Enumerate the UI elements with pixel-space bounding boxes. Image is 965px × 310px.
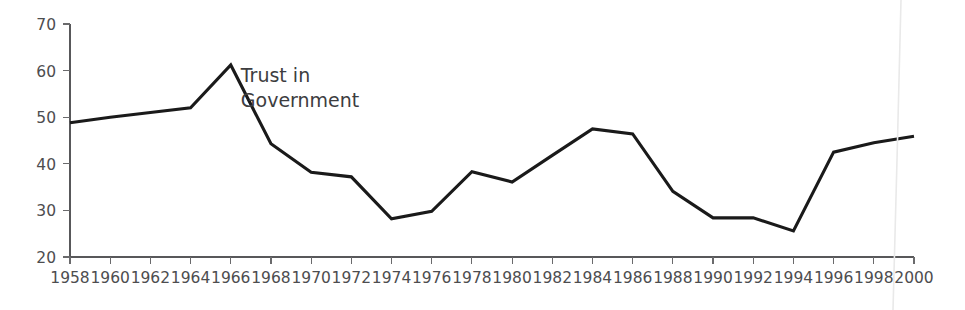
annotation-line-1: Trust in — [240, 64, 310, 86]
y-tick-label-40: 40 — [36, 156, 56, 174]
x-tick-label-1992: 1992 — [734, 269, 773, 287]
x-tick-label-1964: 1964 — [171, 269, 210, 287]
y-tick-label-60: 60 — [36, 63, 56, 81]
x-tick-label-1994: 1994 — [774, 269, 813, 287]
x-tick-label-1966: 1966 — [211, 269, 250, 287]
x-tick-label-1976: 1976 — [412, 269, 451, 287]
x-tick-label-1980: 1980 — [492, 269, 531, 287]
y-tick-label-30: 30 — [36, 202, 56, 220]
x-tick-label-1970: 1970 — [291, 269, 330, 287]
annotation-line-2: Government — [241, 89, 359, 111]
x-tick-label-1990: 1990 — [693, 269, 732, 287]
plot-background — [0, 0, 965, 310]
x-tick-label-1998: 1998 — [854, 269, 893, 287]
x-tick-label-2000: 2000 — [894, 269, 933, 287]
x-tick-label-1962: 1962 — [131, 269, 170, 287]
y-tick-label-50: 50 — [36, 109, 56, 127]
x-tick-label-1974: 1974 — [372, 269, 411, 287]
x-tick-label-1978: 1978 — [452, 269, 491, 287]
y-tick-label-70: 70 — [36, 16, 56, 34]
x-tick-label-1960: 1960 — [90, 269, 129, 287]
trust-in-government-line-chart: 203040506070 195819601962196419661968197… — [0, 0, 965, 310]
x-tick-label-1986: 1986 — [613, 269, 652, 287]
x-tick-label-1984: 1984 — [573, 269, 612, 287]
x-axis-tick-labels: 1958196019621964196619681970197219741976… — [50, 269, 933, 287]
x-tick-label-1968: 1968 — [251, 269, 290, 287]
x-tick-label-1996: 1996 — [814, 269, 853, 287]
chart-canvas: 203040506070 195819601962196419661968197… — [0, 0, 965, 310]
y-tick-label-20: 20 — [36, 249, 56, 267]
x-tick-label-1988: 1988 — [653, 269, 692, 287]
x-tick-label-1958: 1958 — [50, 269, 89, 287]
x-tick-label-1982: 1982 — [533, 269, 572, 287]
x-tick-label-1972: 1972 — [332, 269, 371, 287]
